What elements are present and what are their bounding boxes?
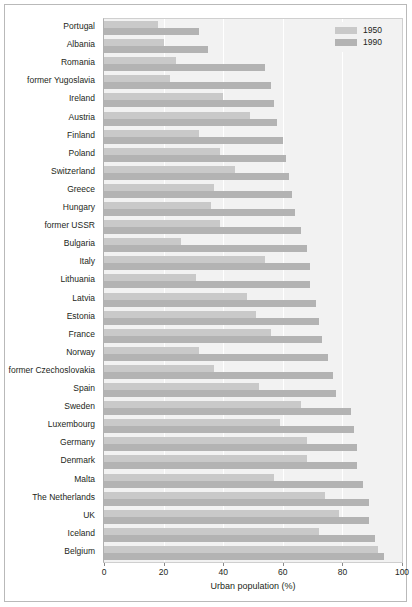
xtick-label-60: 60 (278, 567, 287, 577)
bar-1990-malta (104, 481, 363, 488)
bar-1990-germany (104, 444, 357, 451)
bar-1950-malta (104, 474, 274, 481)
bar-row (104, 55, 402, 73)
bar-1990-portugal (104, 28, 199, 35)
y-label-germany: Germany (60, 438, 95, 447)
y-label-malta: Malta (74, 475, 95, 484)
bar-1950-italy (104, 256, 265, 263)
bar-1950-portugal (104, 21, 158, 28)
bar-row (104, 182, 402, 200)
y-label-iceland: Iceland (68, 529, 95, 538)
legend-swatch-1990-icon (335, 39, 357, 46)
bar-1990-sweden (104, 408, 351, 415)
bar-row (104, 508, 402, 526)
bar-1990-austria (104, 119, 277, 126)
y-label-poland: Poland (69, 149, 95, 158)
y-label-italy: Italy (79, 257, 95, 266)
legend-label-1950: 1950 (363, 26, 382, 35)
bar-row (104, 544, 402, 562)
xtick-label-100: 100 (395, 567, 409, 577)
legend-item-1950: 1950 (335, 24, 397, 36)
y-label-estonia: Estonia (67, 312, 95, 321)
y-label-finland: Finland (67, 131, 95, 140)
bar-row (104, 399, 402, 417)
y-label-austria: Austria (69, 113, 95, 122)
y-label-denmark: Denmark (61, 456, 95, 465)
bar-1990-uk (104, 517, 369, 524)
xtick-mark-40 (223, 563, 224, 566)
xtick-mark-0 (104, 563, 105, 566)
bar-1950-france (104, 329, 271, 336)
bar-1950-lithuania (104, 274, 196, 281)
x-axis-title: Urban population (%) (103, 581, 403, 591)
bar-1990-poland (104, 155, 286, 162)
y-label-latvia: Latvia (72, 294, 95, 303)
bar-1990-italy (104, 263, 310, 270)
bar-1990-luxembourg (104, 426, 354, 433)
bar-1950-latvia (104, 293, 247, 300)
bar-row (104, 146, 402, 164)
bar-1990-spain (104, 390, 336, 397)
y-label-belgium: Belgium (64, 547, 95, 556)
bar-1990-hungary (104, 209, 295, 216)
y-label-luxembourg: Luxembourg (48, 420, 95, 429)
bar-1950-the-netherlands (104, 492, 325, 499)
y-label-greece: Greece (67, 185, 95, 194)
bar-1950-switzerland (104, 166, 235, 173)
bar-row (104, 435, 402, 453)
bar-1990-estonia (104, 318, 319, 325)
y-label-bulgaria: Bulgaria (64, 239, 95, 248)
bar-1950-former-ussr (104, 220, 220, 227)
legend-label-1990: 1990 (363, 38, 382, 47)
bar-row (104, 291, 402, 309)
y-label-norway: Norway (66, 348, 95, 357)
gridline-100 (402, 19, 403, 562)
bar-row (104, 490, 402, 508)
y-label-spain: Spain (73, 384, 95, 393)
bar-row (104, 381, 402, 399)
bar-1950-austria (104, 112, 250, 119)
y-axis-category-labels: PortugalAlbaniaRomaniaformer YugoslaviaI… (5, 18, 99, 563)
xtick-mark-100 (402, 563, 403, 566)
xtick-mark-80 (342, 563, 343, 566)
y-label-the-netherlands: The Netherlands (32, 493, 95, 502)
y-label-albania: Albania (67, 40, 95, 49)
bar-row (104, 73, 402, 91)
bar-1990-latvia (104, 300, 316, 307)
bar-row (104, 472, 402, 490)
bar-1990-former-czechoslovakia (104, 372, 333, 379)
xtick-label-80: 80 (338, 567, 347, 577)
bar-1990-the-netherlands (104, 499, 369, 506)
bar-1990-iceland (104, 535, 375, 542)
bar-1990-norway (104, 354, 328, 361)
bar-1990-switzerland (104, 173, 289, 180)
y-label-lithuania: Lithuania (60, 275, 95, 284)
bar-1950-former-czechoslovakia (104, 365, 214, 372)
bar-1950-former-yugoslavia (104, 75, 170, 82)
x-axis-ticks: 020406080100 (103, 563, 403, 579)
xtick-label-20: 20 (159, 567, 168, 577)
bar-1950-spain (104, 383, 259, 390)
bar-1990-albania (104, 46, 208, 53)
xtick-label-0: 0 (102, 567, 107, 577)
bar-1990-former-ussr (104, 227, 301, 234)
bar-1990-lithuania (104, 281, 310, 288)
bar-row (104, 164, 402, 182)
bar-1950-poland (104, 148, 220, 155)
chart-legend: 1950 1990 (331, 22, 397, 52)
bar-1950-greece (104, 184, 214, 191)
bar-1990-finland (104, 137, 283, 144)
bar-row (104, 309, 402, 327)
y-label-former-ussr: former USSR (44, 221, 95, 230)
bar-row (104, 363, 402, 381)
bar-1990-denmark (104, 462, 357, 469)
bar-row (104, 272, 402, 290)
y-label-switzerland: Switzerland (51, 167, 95, 176)
y-label-ireland: Ireland (69, 94, 95, 103)
bar-1990-former-yugoslavia (104, 82, 271, 89)
bar-row (104, 453, 402, 471)
figure-container: PortugalAlbaniaRomaniaformer YugoslaviaI… (4, 4, 407, 602)
y-label-uk: UK (83, 511, 95, 520)
bar-1990-romania (104, 64, 265, 71)
y-label-portugal: Portugal (63, 22, 95, 31)
